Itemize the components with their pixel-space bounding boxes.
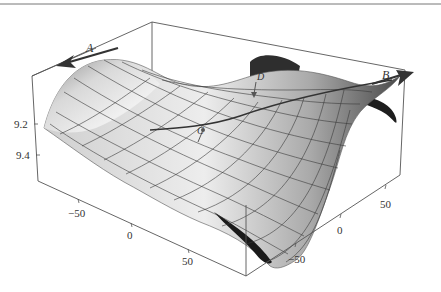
x-tick-0: 0 <box>127 229 133 241</box>
surface-plot: 9.2 9.4 −50 0 50 −50 0 50 A B C D <box>0 0 441 292</box>
x-tick-neg50: −50 <box>68 207 86 219</box>
label-d: D <box>256 71 265 82</box>
y-tick-0: 0 <box>337 224 343 236</box>
y-tick-50: 50 <box>380 198 392 210</box>
z-tick-9-2: 9.2 <box>14 118 28 130</box>
z-tick-9-4: 9.4 <box>16 149 30 161</box>
label-a: A <box>85 41 94 55</box>
label-b: B <box>382 68 390 82</box>
y-tick-neg50: −50 <box>288 253 306 265</box>
label-c: C <box>197 125 204 136</box>
x-tick-50: 50 <box>182 255 194 267</box>
